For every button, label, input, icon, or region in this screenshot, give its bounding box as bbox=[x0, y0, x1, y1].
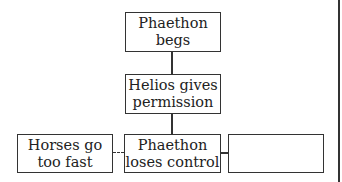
box-horses-go-too-fast: Horses go too fast bbox=[17, 134, 113, 173]
box-text: Horses go too fast bbox=[19, 137, 111, 171]
connector-center-right bbox=[221, 152, 228, 154]
box-text: Phaethon loses control bbox=[125, 137, 220, 171]
page-edge-line bbox=[338, 0, 340, 182]
connector-left-center bbox=[113, 152, 124, 153]
connector-middle-bottom bbox=[171, 114, 173, 134]
box-text: Helios gives permission bbox=[128, 77, 218, 111]
box-phaethon-begs: Phaethon begs bbox=[125, 12, 221, 52]
box-phaethon-loses-control: Phaethon loses control bbox=[124, 134, 221, 173]
connector-top-middle bbox=[171, 52, 173, 74]
box-helios-gives-permission: Helios gives permission bbox=[125, 74, 221, 114]
box-text: Phaethon begs bbox=[138, 15, 208, 49]
box-empty-answer[interactable] bbox=[228, 134, 324, 173]
